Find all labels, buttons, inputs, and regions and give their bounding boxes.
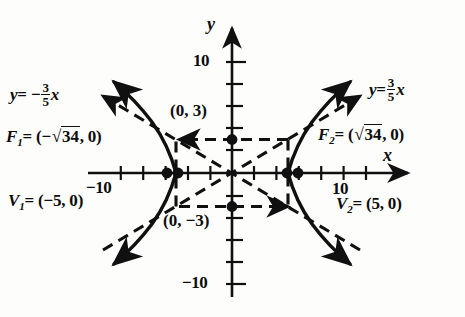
asymptote-right-eq: = [376, 80, 386, 99]
x-axis-label: x [383, 145, 392, 166]
asymptote-right-numerator: 3 [387, 76, 395, 89]
focus-right-name: F [318, 125, 329, 144]
covertex-bottom-label: (0, −3) [163, 211, 210, 231]
radical-sign: √ [354, 125, 363, 144]
left-branch-upper [114, 82, 176, 173]
asymptote-right-denominator: 5 [387, 89, 395, 103]
focus-left-radical: √34 [51, 126, 80, 147]
x-tick-label-neg10: −10 [86, 178, 111, 198]
graph-canvas [0, 0, 465, 317]
focus-right-marker [293, 168, 304, 179]
focus-left-marker [162, 168, 173, 179]
vertex-left-value: = (−5, 0) [24, 191, 83, 210]
asymptote-left-denominator: 5 [41, 94, 49, 108]
asymptote-left-variable: x [51, 85, 59, 104]
y-tick-label-neg10: −10 [182, 273, 207, 293]
asymptote-left-fraction: 35 [41, 81, 49, 108]
y-axis-label: y [207, 14, 215, 35]
asymptote-right-fraction: 35 [387, 76, 395, 103]
vertex-left-name: V [8, 191, 19, 210]
asymptote-right-label: y=35x [369, 76, 404, 103]
asymptote-left-numerator: 3 [41, 81, 49, 94]
y-tick-label-10: 10 [193, 51, 209, 71]
asymptote-right-variable: x [396, 80, 404, 99]
radical-sign: √ [52, 127, 61, 146]
covertex-bottom-marker [227, 201, 238, 212]
covertex-top-marker [227, 134, 238, 145]
focus-left-label: F1= (−√34, 0) [6, 126, 102, 148]
focus-left-name: F [6, 127, 17, 146]
focus-right-label: F2= (√34, 0) [318, 124, 404, 146]
asymptote-left-label: y= −35x [10, 81, 59, 108]
focus-right-eq: = ( [334, 125, 353, 144]
vertex-right-name: V [336, 194, 347, 213]
vertex-right-marker [282, 168, 293, 179]
vertex-right-value: = (5, 0) [352, 194, 401, 213]
vertex-left-label: V1= (−5, 0) [8, 191, 83, 212]
asymptote-left-eq: = − [17, 85, 40, 104]
hyperbola-figure: y x 10 −10 −10 10 y= −35x y=35x F1= (−√3… [0, 0, 465, 317]
focus-left-tail: , 0) [80, 127, 102, 146]
focus-left-eq: = (− [22, 127, 51, 146]
focus-right-radicand: 34 [364, 124, 383, 145]
focus-right-radical: √34 [353, 124, 382, 145]
focus-right-tail: , 0) [382, 125, 404, 144]
focus-left-radicand: 34 [61, 126, 80, 147]
vertex-right-label: V2= (5, 0) [336, 194, 402, 215]
covertex-top-label: (0, 3) [170, 101, 207, 121]
vertex-left-marker [173, 168, 184, 179]
